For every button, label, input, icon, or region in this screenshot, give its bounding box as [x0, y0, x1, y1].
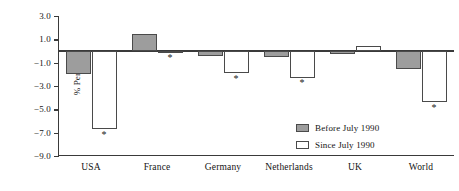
bar-uk-since — [356, 46, 381, 51]
legend-label: Since July 1990 — [315, 140, 375, 150]
x-axis-label-germany: Germany — [205, 162, 241, 172]
x-axis-label-netherlands: Netherlands — [265, 162, 313, 172]
y-axis-tick-label: −7.0 — [34, 128, 51, 138]
x-axis-label-france: France — [144, 162, 171, 172]
y-axis-tick-mark — [54, 63, 59, 64]
y-axis-tick-label: −1.0 — [34, 58, 51, 68]
legend-item: Since July 1990 — [296, 136, 379, 153]
y-axis-tick-mark — [54, 16, 59, 17]
bar-usa-since — [92, 51, 117, 129]
significance-asterisk: * — [102, 130, 107, 140]
bar-usa-before — [66, 51, 91, 74]
bar-france-before — [132, 34, 157, 52]
legend-swatch-since-icon — [296, 141, 309, 149]
y-axis-tick-label: −3.0 — [34, 81, 51, 91]
y-axis-tick-mark — [54, 39, 59, 40]
significance-asterisk: * — [168, 53, 173, 63]
legend-label: Before July 1990 — [315, 123, 379, 133]
legend-item: Before July 1990 — [296, 119, 379, 136]
chart-legend: Before July 1990 Since July 1990 — [296, 119, 379, 153]
x-axis-label-usa: USA — [81, 162, 100, 172]
bar-netherlands-since — [290, 51, 315, 78]
bar-world-before — [396, 51, 421, 69]
y-axis-tick-label: −9.0 — [34, 151, 51, 161]
x-axis-line — [58, 155, 454, 156]
bar-germany-since — [224, 51, 249, 73]
y-axis-tick-label: 3.0 — [39, 11, 51, 21]
bar-uk-before — [330, 51, 355, 54]
legend-swatch-before-icon — [296, 124, 309, 132]
y-axis-tick-label: 1.0 — [39, 34, 51, 44]
x-axis-label-uk: UK — [348, 162, 362, 172]
bar-germany-before — [198, 51, 223, 56]
significance-asterisk: * — [432, 103, 437, 113]
y-axis-tick-mark — [54, 133, 59, 134]
y-axis-tick-mark — [54, 109, 59, 110]
bar-netherlands-before — [264, 51, 289, 57]
y-axis-tick-mark — [54, 156, 59, 157]
bar-world-since — [422, 51, 447, 102]
x-axis-label-world: World — [409, 162, 433, 172]
y-axis-tick-mark — [54, 86, 59, 87]
significance-asterisk: * — [300, 78, 305, 88]
significance-asterisk: * — [234, 74, 239, 84]
y-axis-tick-label: −5.0 — [34, 104, 51, 114]
chart-figure: % Per year 3.01.0−1.0−3.0−5.0−7.0−9.0 **… — [0, 0, 459, 191]
plot-area: 3.01.0−1.0−3.0−5.0−7.0−9.0 ***** USAFran… — [58, 16, 454, 156]
